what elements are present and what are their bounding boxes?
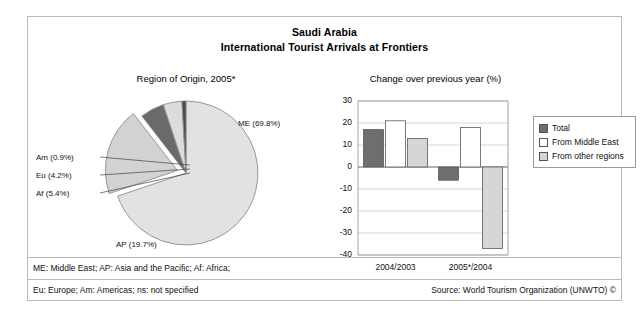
pie-label-ap: AP (19.7%) (116, 240, 157, 249)
legend-swatch-total (539, 124, 548, 133)
legend-swatch-other-regions (539, 152, 548, 161)
chart-legend: Total From Middle East From other region… (533, 116, 636, 168)
y-axis-tick-label: -10 (326, 183, 352, 193)
y-axis-tick-label: 0 (326, 161, 352, 171)
bar-chart: 3020100-10-20-30-40 2004/20032005*/2004 (320, 87, 510, 262)
y-axis-tick-label: 20 (326, 117, 352, 127)
title-line-country: Saudi Arabia (28, 25, 621, 40)
y-axis-tick-label: 10 (326, 139, 352, 149)
legend-item-total: Total (539, 123, 630, 133)
source-credit: Source: World Tourism Organization (UNWT… (431, 285, 616, 295)
y-axis-tick-label: 30 (326, 95, 352, 105)
footnote-abbreviations-1: ME: Middle East; AP: Asia and the Pacifi… (33, 263, 230, 273)
footnote-abbreviations-2: Eu: Europe; Am: Americas; ns: not specif… (33, 285, 198, 295)
legend-item-middle-east: From Middle East (539, 137, 630, 147)
x-axis-tick-label: 2005*/2004 (433, 262, 508, 272)
bar-from-middle-east (461, 127, 481, 167)
legend-label-middle-east: From Middle East (552, 137, 619, 147)
y-axis-tick-label: -20 (326, 205, 352, 215)
footer-divider-bottom (28, 279, 621, 280)
figure-frame: Saudi Arabia International Tourist Arriv… (27, 16, 622, 301)
bar-total (364, 130, 384, 167)
bar-total (439, 167, 459, 180)
pie-label-me: ME (69.8%) (238, 119, 280, 128)
legend-label-total: Total (552, 123, 570, 133)
legend-swatch-middle-east (539, 138, 548, 147)
legend-label-other-regions: From other regions (552, 151, 624, 161)
bar-from-other-regions (483, 167, 503, 248)
bar-from-other-regions (408, 138, 428, 167)
pie-label-af: Af (5.4%) (36, 189, 69, 198)
figure-title: Saudi Arabia International Tourist Arriv… (28, 25, 621, 55)
bar-chart-caption: Change over previous year (%) (328, 73, 543, 84)
pie-label-am: Am (0.9%) (36, 153, 74, 162)
pie-chart-caption: Region of Origin, 2005* (61, 73, 311, 84)
footer-divider-top (28, 257, 621, 258)
bar-from-middle-east (386, 121, 406, 167)
x-axis-tick-label: 2004/2003 (358, 262, 433, 272)
pie-chart-svg (38, 87, 313, 262)
title-line-subject: International Tourist Arrivals at Fronti… (28, 40, 621, 55)
legend-item-other-regions: From other regions (539, 151, 630, 161)
y-axis-tick-label: -30 (326, 227, 352, 237)
pie-chart: ME (69.8%) AP (19.7%) Af (5.4%) Eu (4.2%… (38, 87, 313, 262)
pie-label-eu: Eu (4.2%) (36, 171, 72, 180)
